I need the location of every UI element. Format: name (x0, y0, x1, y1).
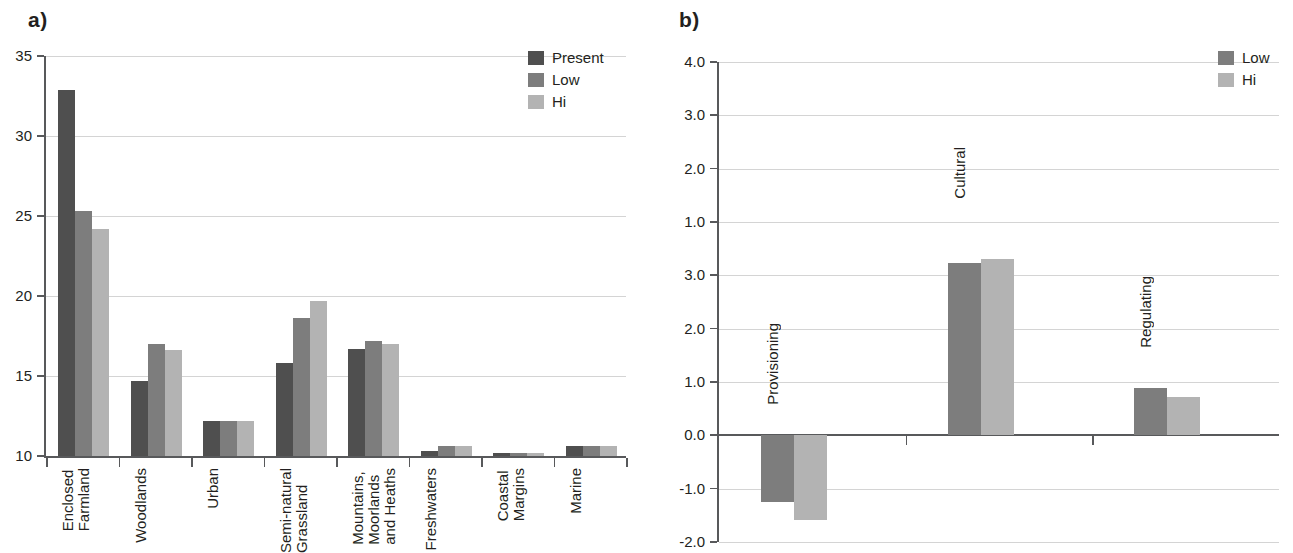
gridline (719, 222, 1279, 223)
legend-label: Hi (1242, 72, 1256, 87)
y-tick-label: 1.0 (667, 214, 705, 229)
y-tick-mark (710, 61, 717, 63)
x-axis-label: Mountains, Moorlands and Heaths (350, 468, 399, 545)
y-tick-label: 35 (0, 48, 32, 63)
x-axis-label: Freshwaters (423, 468, 439, 551)
legend-a: Present Low Hi (528, 50, 604, 116)
category-label: Regulating (1138, 276, 1153, 348)
x-tick-mark (336, 458, 338, 467)
gridline (719, 62, 1279, 63)
x-axis-label: Enclosed Farmland (60, 468, 92, 531)
x-tick-mark (191, 458, 193, 467)
gridline (719, 115, 1279, 116)
y-tick-mark (710, 381, 717, 383)
gridline (719, 542, 1279, 543)
y-tick-mark (710, 114, 717, 116)
bar (981, 259, 1014, 435)
legend-b: Low Hi (1218, 50, 1270, 94)
x-axis-label: Woodlands (133, 468, 149, 543)
x-axis-label: Coastal Margins (495, 468, 527, 521)
y-tick-label: -2.0 (667, 534, 705, 549)
legend-item: Hi (528, 94, 604, 109)
y-tick-mark (37, 455, 44, 457)
y-tick-mark (710, 221, 717, 223)
y-tick-label: 0.0 (667, 427, 705, 442)
bar (382, 344, 399, 456)
legend-swatch (528, 95, 544, 109)
x-axis-label: Marine (568, 468, 584, 514)
bar (438, 446, 455, 456)
y-axis-line (717, 62, 719, 542)
legend-label: Present (552, 50, 604, 65)
bar (421, 451, 438, 456)
x-tick-mark (46, 458, 48, 467)
gridline (46, 136, 626, 137)
y-tick-label: 20 (0, 288, 32, 303)
bar (527, 453, 544, 456)
bar (165, 350, 182, 456)
y-tick-mark (710, 328, 717, 330)
bar (1134, 388, 1167, 435)
x-tick-mark (1092, 436, 1094, 445)
bar (600, 446, 617, 456)
chart-panel-b: b) 4.03.02.01.03.02.01.00.0-1.0-2.0Provi… (647, 0, 1293, 553)
y-tick-label: 4.0 (667, 54, 705, 69)
y-tick-mark (710, 541, 717, 543)
legend-label: Low (1242, 50, 1270, 65)
bar (131, 381, 148, 456)
x-tick-mark (626, 458, 628, 467)
y-tick-label: 15 (0, 368, 32, 383)
y-tick-mark (37, 135, 44, 137)
x-tick-mark (906, 436, 908, 445)
plot-area-b: 4.03.02.01.03.02.01.00.0-1.0-2.0Provisio… (719, 62, 1279, 542)
bar (794, 435, 827, 519)
bar (1167, 397, 1200, 435)
legend-swatch (1218, 73, 1234, 87)
y-tick-label: 1.0 (667, 374, 705, 389)
legend-item: Present (528, 50, 604, 65)
x-tick-mark (119, 458, 121, 467)
gridline (46, 216, 626, 217)
y-tick-mark (710, 434, 717, 436)
bar (203, 421, 220, 456)
bar (455, 446, 472, 456)
y-tick-label: 10 (0, 448, 32, 463)
y-tick-label: 3.0 (667, 267, 705, 282)
y-tick-mark (710, 488, 717, 490)
y-tick-label: 2.0 (667, 321, 705, 336)
y-tick-label: 30 (0, 128, 32, 143)
panel-b-letter: b) (679, 8, 700, 32)
legend-label: Hi (552, 94, 566, 109)
y-tick-mark (37, 375, 44, 377)
bar (293, 318, 310, 456)
y-axis-line (44, 56, 46, 456)
chart-panel-a: a) 101520253035Enclosed FarmlandWoodland… (0, 0, 646, 553)
y-tick-label: 3.0 (667, 107, 705, 122)
y-tick-mark (37, 55, 44, 57)
legend-swatch (528, 51, 544, 65)
bar (276, 363, 293, 456)
y-tick-mark (37, 295, 44, 297)
y-tick-mark (710, 274, 717, 276)
gridline (46, 376, 626, 377)
category-label: Provisioning (765, 323, 780, 405)
y-tick-mark (710, 168, 717, 170)
legend-swatch (528, 73, 544, 87)
category-label: Cultural (952, 147, 967, 199)
bar (948, 263, 981, 435)
bar (510, 453, 527, 456)
bar (220, 421, 237, 456)
legend-item: Low (528, 72, 604, 87)
bar (148, 344, 165, 456)
bar (348, 349, 365, 456)
bar (75, 211, 92, 456)
plot-area-a: 101520253035Enclosed FarmlandWoodlandsUr… (46, 56, 626, 456)
x-axis-label: Urban (205, 468, 221, 509)
legend-label: Low (552, 72, 580, 87)
legend-item: Hi (1218, 72, 1270, 87)
bar (58, 90, 75, 456)
y-tick-label: 25 (0, 208, 32, 223)
x-tick-mark (554, 458, 556, 467)
gridline (46, 296, 626, 297)
bar (566, 446, 583, 456)
